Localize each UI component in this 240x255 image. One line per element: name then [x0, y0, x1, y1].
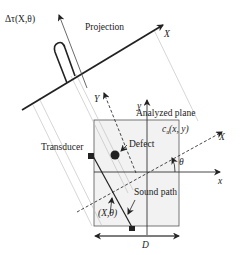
defect-label: Defect [129, 139, 155, 149]
projection-axis [22, 25, 163, 110]
ultrasonic-tomography-diagram: Δτ(X,θ) Projection X Y y Analyzed plane … [0, 0, 240, 255]
transducer-receiver [129, 226, 135, 231]
delay-axis [59, 15, 87, 88]
rotated-y-label: Y [94, 94, 101, 104]
projection-value-label: Δτ(X,θ) [5, 14, 35, 25]
width-dimension-label: D [141, 240, 149, 250]
x-axis-label: x [217, 176, 223, 186]
path-coord-label: (X,θ) [98, 208, 117, 219]
transducer-emitter [88, 153, 94, 159]
analyzed-plane-label: Analyzed plane [136, 108, 195, 118]
projection-label: Projection [85, 22, 124, 32]
defect [111, 151, 120, 160]
angle-label: θ [179, 157, 184, 167]
transducer-label: Transducer [41, 142, 84, 152]
velocity-field-label: ca(x, y) [162, 124, 189, 135]
sound-path-label: Sound path [134, 187, 177, 197]
rotated-x-label: X [218, 132, 226, 142]
projection-axis-label: X [163, 29, 171, 39]
